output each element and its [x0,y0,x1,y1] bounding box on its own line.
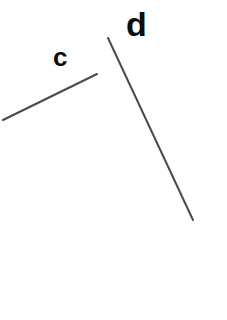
figure-canvas: c d [0,0,227,320]
line-diagram [0,0,227,320]
label-d: d [126,7,147,41]
label-c: c [53,44,67,70]
